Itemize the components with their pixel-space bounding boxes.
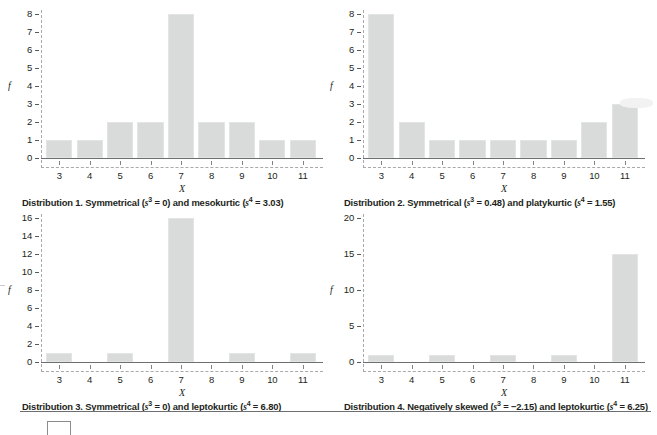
x-axis-dashed-line <box>41 167 323 168</box>
chart-panel-distribution-1: f01234567834567891011XDistribution 1. Sy… <box>0 2 328 214</box>
x-tick-mark <box>120 365 121 369</box>
bar <box>168 218 194 362</box>
x-tick-label: 6 <box>137 171 165 181</box>
x-tick-mark <box>442 161 443 165</box>
y-tick-mark <box>35 140 39 141</box>
x-tick-mark <box>594 365 595 369</box>
x-tick-label: 11 <box>289 375 317 385</box>
y-tick-label: 4 <box>8 81 32 91</box>
x-axis-baseline <box>41 158 323 159</box>
y-tick-label: 5 <box>330 63 354 73</box>
left-edge-mark <box>0 285 5 286</box>
y-tick-label: 12 <box>8 249 32 259</box>
plot-area-distribution-4: f0510152034567891011X <box>322 206 650 392</box>
y-tick-label: 0 <box>8 357 32 367</box>
y-tick-mark <box>35 290 39 291</box>
y-tick-mark <box>35 326 39 327</box>
y-tick-label: 5 <box>8 63 32 73</box>
x-tick-label: 6 <box>137 375 165 385</box>
y-tick-mark <box>35 50 39 51</box>
x-axis-dashed-line <box>363 167 645 168</box>
y-tick-mark <box>35 104 39 105</box>
x-tick-label: 10 <box>258 375 286 385</box>
bar <box>46 353 72 362</box>
x-tick-mark <box>564 161 565 165</box>
chart-panel-distribution-3: f024681012141634567891011XDistribution 3… <box>0 206 328 418</box>
y-tick-label: 0 <box>8 153 32 163</box>
bar <box>368 355 394 362</box>
x-tick-mark <box>242 161 243 165</box>
x-tick-mark <box>412 365 413 369</box>
x-tick-mark <box>59 365 60 369</box>
y-tick-label: 2 <box>330 117 354 127</box>
x-tick-label: 3 <box>367 375 395 385</box>
x-tick-mark <box>442 365 443 369</box>
x-axis-label: X <box>41 184 323 194</box>
x-tick-mark <box>503 161 504 165</box>
x-tick-label: 11 <box>289 171 317 181</box>
x-tick-mark <box>625 365 626 369</box>
bar <box>612 104 638 158</box>
x-tick-label: 10 <box>580 375 608 385</box>
x-tick-label: 8 <box>519 375 547 385</box>
x-tick-label: 7 <box>489 171 517 181</box>
y-tick-mark <box>357 326 361 327</box>
bar <box>168 14 194 158</box>
y-tick-label: 4 <box>8 321 32 331</box>
y-tick-label: 8 <box>330 9 354 19</box>
bar <box>107 122 133 158</box>
y-tick-label: 20 <box>330 213 354 223</box>
x-tick-mark <box>272 365 273 369</box>
bar <box>46 140 72 158</box>
y-tick-label: 14 <box>8 231 32 241</box>
x-tick-mark <box>625 161 626 165</box>
x-tick-label: 7 <box>167 375 195 385</box>
y-tick-mark <box>35 68 39 69</box>
bar <box>490 140 516 158</box>
x-tick-label: 4 <box>76 171 104 181</box>
x-tick-mark <box>211 161 212 165</box>
plot-area-distribution-1: f01234567834567891011X <box>0 2 328 188</box>
y-tick-label: 16 <box>8 213 32 223</box>
y-tick-label: 6 <box>330 45 354 55</box>
bar <box>259 140 285 158</box>
x-tick-label: 3 <box>45 375 73 385</box>
y-axis-line <box>41 214 42 372</box>
y-tick-mark <box>357 122 361 123</box>
y-tick-mark <box>357 290 361 291</box>
y-tick-label: 5 <box>330 321 354 331</box>
y-tick-mark <box>35 308 39 309</box>
y-tick-label: 0 <box>330 357 354 367</box>
x-tick-mark <box>90 161 91 165</box>
y-tick-label: 7 <box>330 27 354 37</box>
x-tick-label: 4 <box>76 375 104 385</box>
y-tick-mark <box>357 14 361 15</box>
y-tick-mark <box>357 104 361 105</box>
bar <box>399 122 425 158</box>
y-tick-label: 10 <box>8 267 32 277</box>
x-tick-mark <box>303 161 304 165</box>
x-tick-label: 5 <box>106 171 134 181</box>
x-tick-mark <box>211 365 212 369</box>
x-tick-mark <box>412 161 413 165</box>
bar <box>551 140 577 158</box>
bar <box>229 122 255 158</box>
x-tick-label: 10 <box>580 171 608 181</box>
y-tick-mark <box>35 218 39 219</box>
x-tick-mark <box>272 161 273 165</box>
bar <box>229 353 255 362</box>
x-tick-label: 9 <box>550 171 578 181</box>
y-axis-line <box>363 10 364 168</box>
y-tick-label: 0 <box>330 153 354 163</box>
y-tick-label: 7 <box>8 27 32 37</box>
x-axis-dashed-line <box>41 371 323 372</box>
bar <box>137 122 163 158</box>
x-axis-dashed-line <box>363 371 645 372</box>
x-tick-label: 5 <box>428 375 456 385</box>
plot-area-distribution-2: f01234567834567891011X <box>322 2 650 188</box>
bar <box>490 355 516 362</box>
x-tick-label: 11 <box>611 171 639 181</box>
bar <box>290 353 316 362</box>
x-tick-mark <box>564 365 565 369</box>
x-tick-mark <box>503 365 504 369</box>
